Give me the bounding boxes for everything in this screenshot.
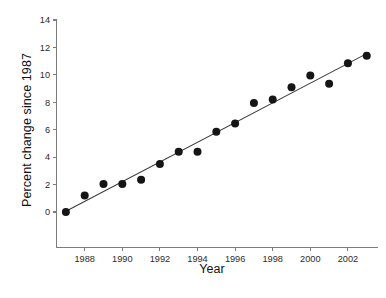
data-point (81, 192, 89, 200)
data-point (137, 176, 145, 184)
data-point (250, 99, 258, 107)
data-point (306, 72, 314, 80)
data-point (100, 180, 108, 188)
y-tick-label: 6 (45, 125, 50, 135)
scatter-plot-canvas: 02468101214 1988199019921994199619982000… (0, 0, 386, 298)
data-point (118, 180, 126, 188)
y-tick-label: 2 (45, 180, 50, 190)
y-tick-label: 0 (45, 207, 50, 217)
data-point (62, 208, 70, 216)
data-point (212, 128, 220, 136)
y-tick-label: 8 (45, 98, 50, 108)
data-point (231, 120, 239, 128)
data-point (344, 59, 352, 67)
x-axis-title: Year (52, 262, 372, 276)
y-tick-label: 14 (40, 15, 50, 25)
data-point (175, 148, 183, 156)
y-tick-label: 10 (40, 70, 50, 80)
y-tick-label: 4 (45, 152, 50, 162)
y-tick-label-group: 02468101214 (40, 15, 50, 217)
data-point (194, 148, 202, 156)
data-point (363, 52, 371, 60)
data-point (269, 96, 277, 104)
data-point (156, 160, 164, 168)
data-point (325, 80, 333, 88)
chart-figure: Percent change since 1987 02468101214 19… (0, 0, 386, 298)
data-point (288, 83, 296, 91)
y-tick-label: 12 (40, 43, 50, 53)
